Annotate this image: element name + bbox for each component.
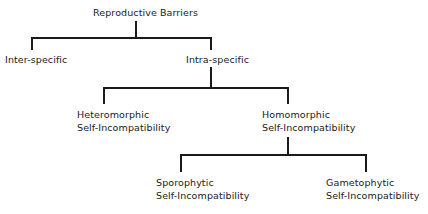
node-sporophytic-line2: Self-Incompatibility [156,189,249,202]
node-sporophytic-line1: Sporophytic [156,176,249,189]
connector-intra-stem [210,67,212,88]
connector-sporo-drop [180,154,182,172]
node-homomorphic-line1: Homomorphic [262,108,355,121]
node-inter-specific: Inter-specific [5,53,67,66]
connector-inter-drop [31,37,33,50]
connector-homo-drop [287,87,289,104]
node-heteromorphic-line1: Heteromorphic [77,108,170,121]
node-intra-specific: Intra-specific [186,53,249,66]
node-sporophytic-si: Sporophytic Self-Incompatibility [156,176,249,202]
node-gametophytic-si: Gametophytic Self-Incompatibility [326,176,419,202]
node-homomorphic-line2: Self-Incompatibility [262,121,355,134]
node-reproductive-barriers: Reproductive Barriers [93,6,198,19]
connector-hetero-drop [103,87,105,104]
node-gametophytic-line2: Self-Incompatibility [326,189,419,202]
connector-root-stem [135,21,137,37]
connector-gameto-drop [365,154,367,172]
connector-intra-drop [210,37,212,50]
node-homomorphic-si: Homomorphic Self-Incompatibility [262,108,355,134]
node-gametophytic-line1: Gametophytic [326,176,419,189]
connector-homo-stem [287,137,289,155]
connector-level3-bar [180,154,366,156]
connector-level2-bar [103,87,288,89]
node-heteromorphic-line2: Self-Incompatibility [77,121,170,134]
node-heteromorphic-si: Heteromorphic Self-Incompatibility [77,108,170,134]
connector-level1-bar [31,37,211,39]
